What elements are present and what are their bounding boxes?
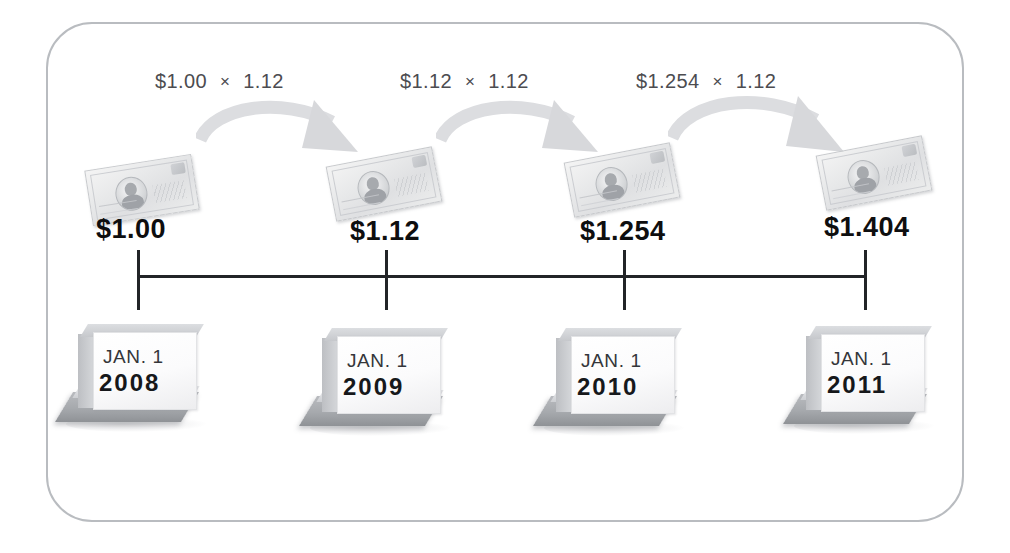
banknote-denomination-mark: [170, 162, 186, 175]
calendar-front-face: JAN. 1 2008: [93, 332, 197, 410]
banknote-portrait-icon: [845, 157, 883, 196]
money-value-1: $1.00: [96, 214, 166, 245]
banknote-denomination-mark: [411, 155, 427, 168]
multiply-icon: ×: [706, 72, 730, 92]
calendar-front-face: JAN. 1 2011: [821, 334, 925, 412]
calendar-year-label: 2008: [99, 369, 160, 397]
growth-label-2-base: $1.12: [400, 70, 452, 92]
timeline-tick-2009: [385, 250, 388, 310]
multiply-icon: ×: [213, 72, 237, 92]
growth-label-1-base: $1.00: [155, 70, 207, 92]
banknote-scrollwork-left: [342, 194, 381, 210]
calendar-block-2008: JAN. 1 2008: [62, 318, 214, 438]
banknote-scrollwork-left: [580, 190, 619, 206]
banknote-portrait-icon: [593, 164, 631, 203]
timeline-tick-2008: [137, 250, 140, 310]
multiply-icon: ×: [458, 72, 482, 92]
growth-label-3-factor: 1.12: [736, 70, 777, 92]
growth-label-1-factor: 1.12: [243, 70, 284, 92]
banknote-scrollwork-left: [832, 183, 871, 199]
timeline-axis: [137, 275, 867, 278]
timeline-tick-2011: [864, 250, 867, 310]
calendar-year-label: 2009: [343, 373, 404, 401]
calendar-year-label: 2010: [577, 373, 638, 401]
banknote-denomination-mark: [649, 151, 665, 164]
calendar-block-2010: JAN. 1 2010: [540, 322, 692, 442]
calendar-block-2011: JAN. 1 2011: [790, 320, 942, 440]
calendar-block-2009: JAN. 1 2009: [306, 322, 458, 442]
banknote-scrollwork-right: [632, 169, 667, 193]
calendar-front-face: JAN. 1 2010: [571, 336, 675, 414]
calendar-month-label: JAN. 1: [103, 346, 164, 368]
timeline-tick-2010: [623, 250, 626, 310]
banknote-scrollwork-right: [394, 173, 429, 197]
banknote-portrait-icon: [355, 168, 393, 207]
calendar-month-label: JAN. 1: [581, 350, 642, 372]
figure-canvas: $1.00 × 1.12 $1.12 × 1.12 $1.254 × 1.12: [0, 0, 1010, 553]
growth-label-3-base: $1.254: [636, 70, 700, 92]
growth-label-2-factor: 1.12: [488, 70, 529, 92]
calendar-year-label: 2011: [827, 371, 887, 399]
banknote-scrollwork-right: [884, 162, 919, 186]
growth-label-1: $1.00 × 1.12: [155, 70, 284, 93]
banknote-scrollwork-right: [152, 180, 186, 203]
calendar-month-label: JAN. 1: [831, 348, 892, 370]
growth-label-2: $1.12 × 1.12: [400, 70, 529, 93]
banknote-portrait-icon: [113, 174, 150, 213]
banknote-scrollwork-left: [99, 200, 138, 215]
diagram-frame: [46, 22, 964, 522]
calendar-month-label: JAN. 1: [347, 350, 408, 372]
money-value-4: $1.404: [824, 212, 910, 243]
money-value-3: $1.254: [580, 216, 666, 247]
growth-label-3: $1.254 × 1.12: [636, 70, 776, 93]
banknote-denomination-mark: [901, 144, 917, 157]
calendar-front-face: JAN. 1 2009: [337, 336, 441, 414]
money-value-2: $1.12: [350, 216, 420, 247]
